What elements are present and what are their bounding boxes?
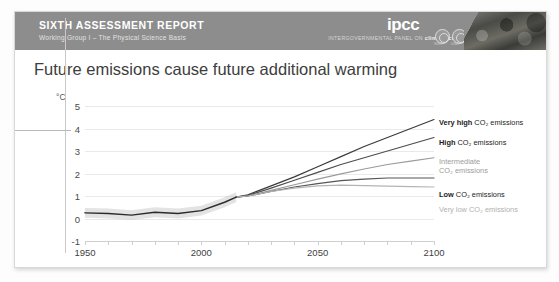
x-axis-tick-label: 2050 (307, 247, 328, 258)
x-axis-minor-tick (225, 241, 226, 245)
legend-item-very-high: Very high CO₂ emissions (439, 118, 523, 127)
report-subtitle: Working Group I – The Physical Science B… (39, 34, 186, 41)
slide-background: SIXTH ASSESSMENT REPORT Working Group I … (0, 0, 559, 282)
figure-card: SIXTH ASSESSMENT REPORT Working Group I … (14, 11, 547, 268)
x-axis-minor-tick (155, 241, 156, 245)
x-axis-line (85, 241, 434, 242)
legend-label-rest-very-high: CO₂ emissions (472, 118, 523, 127)
legend-label-bold-high: High (439, 138, 455, 147)
y-axis-tick-label: -1 (72, 236, 80, 247)
ipcc-wordmark: ipcc (387, 16, 419, 33)
series-paths (85, 120, 434, 216)
chart-title: Future emissions cause future additional… (34, 60, 397, 79)
report-header-banner: SIXTH ASSESSMENT REPORT Working Group I … (15, 12, 546, 50)
legend-label-rest-very-low: CO₂ emissions (467, 205, 518, 214)
x-axis-minor-tick (341, 241, 342, 245)
legend-item-high: High CO₂ emissions (439, 138, 506, 147)
y-axis-tick-label: 0 (75, 213, 80, 224)
header-photo-strip (464, 12, 546, 50)
x-axis-tick-label: 2000 (191, 247, 212, 258)
legend-label-rest-intermediate: CO₂ emissions (439, 166, 488, 175)
x-axis-minor-tick (434, 241, 435, 245)
legend-label-bold-intermediate: Intermediate (439, 157, 488, 166)
y-axis-tick-label: 5 (75, 101, 80, 112)
left-vertical-rule (65, 18, 66, 253)
unep-logo-caption: UNEP (451, 42, 461, 46)
ipcc-tagline-prefix: INTERGOVERNMENTAL PANEL ON (328, 35, 425, 41)
legend-item-intermediate: Intermediate CO₂ emissions (439, 157, 488, 175)
left-leader-line (15, 130, 71, 131)
x-axis-minor-tick (108, 241, 109, 245)
x-axis-minor-tick (387, 241, 388, 245)
legend-label-bold-very-low: Very low (439, 205, 467, 214)
y-axis-tick-label: 4 (75, 123, 80, 134)
report-title: SIXTH ASSESSMENT REPORT (39, 19, 204, 31)
series-lines (85, 106, 434, 241)
x-axis-minor-tick (248, 241, 249, 245)
x-axis-minor-tick (318, 241, 319, 245)
legend-item-low: Low CO₂ emissions (439, 190, 505, 199)
x-axis-minor-tick (178, 241, 179, 245)
x-axis-tick-label: 1950 (74, 247, 95, 258)
legend-label-bold-very-high: Very high (439, 118, 472, 127)
x-axis-minor-tick (294, 241, 295, 245)
x-axis-minor-tick (271, 241, 272, 245)
legend-label-rest-low: CO₂ emissions (454, 190, 505, 199)
y-axis-tick-label: 1 (75, 191, 80, 202)
x-axis-minor-tick (132, 241, 133, 245)
x-axis-tick-label: 2100 (423, 247, 444, 258)
legend-label-rest-high: CO₂ emissions (455, 138, 506, 147)
legend-item-very-low: Very low CO₂ emissions (439, 205, 518, 214)
wmo-logo-caption: WMO (434, 42, 443, 46)
x-axis-minor-tick (85, 241, 86, 245)
x-axis-minor-tick (411, 241, 412, 245)
y-axis-tick-label: 2 (75, 168, 80, 179)
legend-label-bold-low: Low (439, 190, 454, 199)
x-axis-minor-tick (364, 241, 365, 245)
x-axis-minor-tick (201, 241, 202, 245)
plot-area: 543210-1 1950200020502100 (85, 106, 434, 241)
y-axis-tick-label: 3 (75, 146, 80, 157)
